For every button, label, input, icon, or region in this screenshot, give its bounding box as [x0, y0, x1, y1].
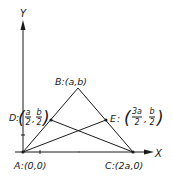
label-E: E : ( 3a 2 , b 2 ) — [110, 107, 164, 128]
label-D-y-den: 2 — [36, 118, 41, 127]
svg-text:,: , — [32, 114, 35, 124]
point-A — [21, 150, 24, 153]
svg-text::: : — [117, 113, 120, 124]
label-D-y-num: b — [36, 108, 41, 117]
label-B-coords: (a,b) — [65, 76, 87, 87]
svg-text:A:(0,0): A:(0,0) — [13, 160, 46, 171]
svg-text:(: ( — [124, 108, 132, 128]
y-axis-arrow — [21, 20, 26, 30]
x-axis-arrow — [144, 150, 154, 155]
label-E-name: E — [110, 113, 116, 124]
label-E-x-num: 3a — [132, 107, 142, 116]
x-axis-label: X — [154, 148, 163, 159]
svg-text:): ) — [155, 108, 164, 128]
label-D-x-den: 2 — [25, 118, 30, 127]
point-C — [131, 150, 134, 153]
label-E-y-den: 2 — [149, 118, 154, 127]
svg-text:C:(2a,0): C:(2a,0) — [105, 160, 143, 171]
label-A-name: A — [13, 160, 21, 171]
svg-text:,: , — [144, 114, 147, 124]
label-A: A:(0,0) — [13, 160, 46, 171]
label-C-coords: (2a,0) — [115, 160, 143, 171]
label-B: B:(a,b) — [55, 76, 87, 87]
label-D-x-num: a — [26, 108, 31, 117]
label-E-y-num: b — [149, 107, 154, 116]
point-E — [105, 119, 108, 122]
y-axis-label: Y — [20, 8, 27, 19]
label-E-x-den: 2 — [134, 118, 139, 127]
triangle-diagram: Y X B:(a,b) A:(0,0) C:(2a,0) D : ( a 2 ,… — [0, 0, 173, 180]
point-D — [50, 119, 53, 122]
svg-text:B:(a,b): B:(a,b) — [55, 76, 87, 87]
svg-text:): ) — [41, 108, 50, 128]
label-C: C:(2a,0) — [105, 160, 143, 171]
label-D: D : ( a 2 , b 2 ) — [9, 108, 50, 128]
label-A-coords: (0,0) — [24, 160, 47, 171]
